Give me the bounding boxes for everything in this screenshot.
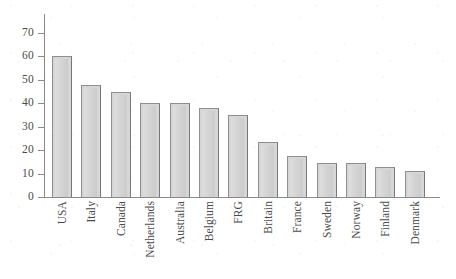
bar-fill (143, 106, 156, 197)
x-axis-label-slot: Denmark (400, 201, 430, 277)
bar (111, 92, 131, 197)
bar (346, 163, 366, 197)
y-axis-tick-label: 50 (0, 74, 34, 86)
bar-fill (202, 111, 215, 197)
x-axis-label-slot: France (282, 201, 312, 277)
x-axis-label-slot: Italy (76, 201, 106, 277)
y-axis-tick-mark (38, 56, 45, 57)
x-axis-label-text: Norway (350, 201, 362, 239)
bar-fill (173, 106, 186, 197)
x-axis-label-slot: Britain (253, 201, 283, 277)
x-axis-label-text: Denmark (409, 201, 421, 245)
y-axis-tick-label: 60 (0, 50, 34, 62)
x-axis-label-slot: Belgium (194, 201, 224, 277)
bar (258, 142, 278, 197)
bar (199, 108, 219, 197)
y-axis-tick-mark (38, 150, 45, 151)
y-axis-tick-label-text: 20 (6, 144, 34, 156)
x-axis-label-text: USA (56, 201, 68, 224)
x-axis-label-text: Italy (85, 201, 97, 223)
bar (81, 85, 101, 197)
y-axis-line (44, 14, 45, 198)
y-axis-tick-label-text: 70 (6, 27, 34, 39)
bar-fill (290, 159, 303, 197)
y-axis-tick-label-text: 40 (6, 97, 34, 109)
y-axis-tick-mark (38, 174, 45, 175)
y-axis-tick-label: 40 (0, 97, 34, 109)
y-axis-tick-label-text: 30 (6, 121, 34, 133)
x-axis-label-text: Finland (379, 201, 391, 237)
bar (52, 56, 72, 197)
bar (170, 103, 190, 197)
bar (228, 115, 248, 197)
y-axis-tick-label: 10 (0, 168, 34, 180)
x-axis-line (44, 197, 440, 198)
x-axis-label-slot: Netherlands (135, 201, 165, 277)
x-axis-label-text: Belgium (203, 201, 215, 241)
y-axis-tick-label-text: 10 (6, 168, 34, 180)
y-axis-tick-mark (38, 33, 45, 34)
bar-fill (231, 118, 244, 197)
x-axis-label-text: Britain (262, 201, 274, 234)
bar (317, 163, 337, 197)
bar (375, 167, 395, 197)
y-axis-tick-label: 0 (0, 191, 34, 203)
y-axis-tick-label-text: 50 (6, 74, 34, 86)
x-axis-label-slot: Norway (341, 201, 371, 277)
x-axis-label-text: Canada (115, 201, 127, 236)
plot-area: 010203040506070 USAItalyCanadaNetherland… (0, 0, 456, 279)
y-axis-tick-mark (38, 197, 45, 198)
bar-fill (408, 174, 421, 197)
y-axis-tick-label: 20 (0, 144, 34, 156)
y-axis-tick-label-text: 0 (6, 191, 34, 203)
bar-fill (84, 88, 97, 197)
y-axis-tick-mark (38, 80, 45, 81)
y-axis-tick-label: 70 (0, 27, 34, 39)
x-axis-label-slot: FRG (223, 201, 253, 277)
bar-fill (378, 170, 391, 197)
y-axis-tick-mark (38, 127, 45, 128)
bar-fill (320, 166, 333, 197)
bar-fill (114, 95, 127, 197)
x-axis-label-text: FRG (232, 201, 244, 224)
x-axis-label-text: France (291, 201, 303, 233)
x-axis-label-text: Australia (174, 201, 186, 244)
y-axis-tick-label: 30 (0, 121, 34, 133)
bar (287, 156, 307, 197)
x-axis-label-slot: Sweden (312, 201, 342, 277)
x-axis-label-slot: Finland (370, 201, 400, 277)
bar-chart: 010203040506070 USAItalyCanadaNetherland… (0, 0, 456, 279)
x-axis-label-slot: Australia (165, 201, 195, 277)
bar-fill (261, 145, 274, 197)
y-axis-tick-mark (38, 103, 45, 104)
x-axis-label-slot: Canada (106, 201, 136, 277)
bar-fill (349, 166, 362, 197)
bar (405, 171, 425, 197)
bar-fill (55, 59, 68, 197)
x-axis-label-text: Sweden (321, 201, 333, 238)
bar (140, 103, 160, 197)
x-axis-label-text: Netherlands (144, 201, 156, 258)
x-axis-label-slot: USA (47, 201, 77, 277)
y-axis-tick-label-text: 60 (6, 50, 34, 62)
